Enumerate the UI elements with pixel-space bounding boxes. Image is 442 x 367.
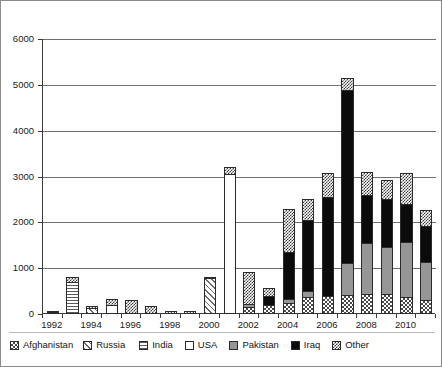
y-tick-mark [38,222,42,223]
legend-label: Other [345,340,369,350]
bar-segment-iraq [283,252,295,300]
bar-segment-iraq [381,199,393,249]
bar-segment-afghanistan [341,295,353,314]
bar-segment-iraq [322,197,334,297]
x-tick-mark [219,314,220,318]
bar-segment-other [420,210,432,227]
y-tick-mark [38,131,42,132]
bar-column[interactable] [400,38,412,313]
y-tick-label: 0 [1,309,34,318]
bar-column[interactable] [66,38,78,313]
bar-segment-afghanistan [400,297,412,314]
x-tick-mark [317,314,318,318]
bar-column[interactable] [145,38,157,313]
bar-column[interactable] [224,38,236,313]
bar-stack [66,277,78,313]
legend-divider [9,332,435,333]
bar-column[interactable] [184,38,196,313]
legend-label: USA [198,340,218,350]
x-tick-mark [101,314,102,318]
plot-area [42,39,435,314]
legend-item-pakistan[interactable]: Pakistan [229,340,278,350]
legend-label: Pakistan [242,340,278,350]
bar-segment-iraq [400,204,412,243]
x-tick-label: 1996 [110,319,150,330]
legend-swatch-iraq-icon [291,341,300,350]
bar-segment-other [302,199,314,221]
bar-stack [224,167,236,313]
x-tick-mark [180,314,181,318]
x-tick-mark [121,314,122,318]
bar-stack [145,306,157,313]
bar-stack [243,272,255,313]
bar-column[interactable] [106,38,118,313]
x-tick-mark [62,314,63,318]
bar-stack [420,210,432,313]
y-tick-mark [38,85,42,86]
bar-column[interactable] [125,38,137,313]
bar-segment-afghanistan [263,305,275,314]
x-tick-mark [356,314,357,318]
bar-stack [165,311,177,313]
bar-stack [302,199,314,313]
bar-stack [106,299,118,313]
bar-column[interactable] [420,38,432,313]
bar-stack [283,209,295,313]
bar-stack [341,78,353,313]
x-tick-mark [435,314,436,318]
legend-item-iraq[interactable]: Iraq [291,340,320,350]
legend-swatch-russia-icon [83,341,92,350]
bar-stack [125,300,137,313]
x-tick-mark [199,314,200,318]
bar-stack [263,288,275,313]
bar-column[interactable] [302,38,314,313]
legend-item-other[interactable]: Other [332,340,369,350]
bar-segment-other [381,180,393,200]
bar-column[interactable] [283,38,295,313]
legend-item-russia[interactable]: Russia [83,340,125,350]
y-tick-mark [38,177,42,178]
legend-item-afghanistan[interactable]: Afghanistan [10,340,73,350]
legend-swatch-other-icon [332,341,341,350]
legend-item-usa[interactable]: USA [185,340,218,350]
bar-series-container [43,38,436,313]
bar-segment-other [145,306,157,314]
x-tick-label: 1992 [32,319,72,330]
x-tick-label: 2010 [386,319,426,330]
y-tick-label: 2000 [1,217,34,226]
bar-column[interactable] [263,38,275,313]
chart-figure: 0100020003000400050006000 19921994199619… [0,0,442,367]
bar-column[interactable] [165,38,177,313]
legend-label: Iraq [304,340,320,350]
bar-stack [204,277,216,314]
x-axis: 1992199419961998200020022004200620082010 [42,314,435,330]
x-tick-mark [396,314,397,318]
x-tick-label: 2008 [346,319,386,330]
bar-segment-other [400,173,412,205]
bar-column[interactable] [381,38,393,313]
bar-column[interactable] [341,38,353,313]
x-tick-mark [239,314,240,318]
bar-column[interactable] [361,38,373,313]
legend-item-india[interactable]: India [139,340,173,350]
bar-segment-afghanistan [381,294,393,314]
x-tick-mark [42,314,43,318]
bar-segment-pakistan [361,243,373,296]
chart-legend: AfghanistanRussiaIndiaUSAPakistanIraqOth… [10,337,434,353]
bar-segment-other [243,272,255,305]
y-tick-mark [38,268,42,269]
bar-stack [47,311,59,313]
bar-segment-afghanistan [283,303,295,314]
bar-column[interactable] [47,38,59,313]
legend-label: Afghanistan [23,340,73,350]
bar-segment-pakistan [400,242,412,298]
bar-column[interactable] [322,38,334,313]
bar-stack [86,306,98,313]
bar-column[interactable] [243,38,255,313]
bar-segment-afghanistan [302,297,314,314]
bar-segment-other [322,173,334,198]
bar-column[interactable] [86,38,98,313]
bar-column[interactable] [204,38,216,313]
x-tick-mark [297,314,298,318]
bar-segment-afghanistan [420,300,432,314]
